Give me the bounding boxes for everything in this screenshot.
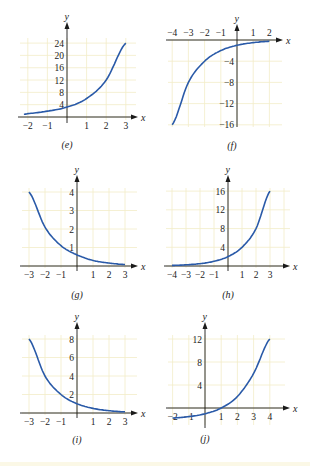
y-axis-label: y — [74, 311, 80, 322]
y-tick-label: 3 — [69, 206, 74, 216]
y-tick-label: 4 — [69, 188, 74, 198]
x-tick-label: 3 — [268, 270, 273, 280]
y-tick-label: 2 — [69, 390, 74, 400]
y-tick-label: 12 — [193, 335, 203, 345]
y-tick-label: 24 — [55, 39, 65, 49]
caption-i: (i) — [72, 434, 82, 446]
x-tick-label: 3 — [123, 121, 128, 131]
caption-f: (f) — [227, 140, 237, 152]
x-tick-label: −1 — [209, 270, 219, 280]
x-axis-arrow-icon — [131, 115, 138, 120]
x-tick-label: 1 — [91, 417, 96, 427]
plot-g: xy−3−2−11231234(g) — [20, 164, 146, 301]
y-tick-label: 8 — [197, 358, 202, 368]
x-axis-label: x — [140, 261, 146, 272]
y-axis-arrow-icon — [235, 24, 240, 31]
bottom-strip — [0, 462, 310, 466]
x-tick-label: 1 — [219, 412, 224, 422]
x-tick-label: −2 — [168, 412, 178, 422]
x-tick-label: −1 — [56, 270, 66, 280]
y-tick-label: 20 — [55, 51, 65, 61]
x-axis-label: x — [140, 408, 146, 419]
caption-h: (h) — [222, 289, 234, 301]
x-tick-label: 3 — [251, 412, 256, 422]
x-tick-label: −4 — [167, 270, 177, 280]
x-axis-arrow-icon — [283, 264, 290, 269]
y-tick-label: 8 — [220, 224, 225, 234]
y-tick-label: 16 — [216, 187, 226, 197]
grid — [22, 335, 137, 415]
y-axis-arrow-icon — [75, 175, 80, 182]
x-tick-label: −2 — [23, 121, 33, 131]
x-tick-label: 2 — [107, 270, 112, 280]
y-axis-label: y — [202, 311, 208, 322]
x-tick-label: −2 — [200, 28, 210, 38]
x-axis-arrow-icon — [131, 264, 138, 269]
x-tick-label: 1 — [251, 28, 256, 38]
x-tick-label: −2 — [40, 270, 50, 280]
x-axis-label: x — [292, 261, 298, 272]
y-tick-label: 8 — [59, 88, 64, 98]
y-axis-arrow-icon — [65, 22, 70, 29]
y-tick-label: 4 — [197, 381, 202, 391]
y-tick-label: 6 — [69, 353, 74, 363]
x-tick-label: −3 — [181, 270, 191, 280]
y-tick-label: 12 — [216, 205, 226, 215]
plot-e: xy−2−11234812162024(e) — [18, 11, 146, 151]
x-tick-label: 4 — [267, 412, 272, 422]
y-tick-label: −4 — [224, 57, 234, 67]
plot-i: xy−3−2−11232468(i) — [20, 311, 146, 446]
plot-h: xy−4−3−2−1123481216(h) — [164, 164, 298, 301]
y-axis-label: y — [234, 13, 240, 24]
y-axis-arrow-icon — [226, 175, 231, 182]
x-tick-label: 1 — [240, 270, 245, 280]
y-tick-label: 4 — [69, 372, 74, 382]
caption-g: (g) — [71, 289, 83, 301]
plot-j: xy−2−112344812(j) — [166, 311, 298, 445]
x-tick-label: 1 — [84, 121, 89, 131]
caption-e: (e) — [61, 139, 73, 151]
x-tick-label: 1 — [91, 270, 96, 280]
y-tick-label: −12 — [219, 99, 234, 109]
x-axis-label: x — [285, 35, 291, 46]
x-tick-label: 2 — [104, 121, 109, 131]
x-tick-label: 2 — [254, 270, 259, 280]
y-tick-label: −16 — [219, 120, 234, 130]
x-axis-arrow-icon — [276, 38, 283, 43]
y-axis-label: y — [225, 164, 231, 175]
plot-f: xy−4−3−2−112−4−8−12−16(f) — [166, 13, 291, 152]
caption-j: (j) — [200, 433, 210, 445]
x-axis-label: x — [292, 403, 298, 414]
x-tick-label: 3 — [123, 417, 128, 427]
x-tick-label: −3 — [183, 28, 193, 38]
y-tick-label: −8 — [224, 78, 234, 88]
x-axis-label: x — [140, 112, 146, 123]
x-tick-label: −1 — [216, 28, 226, 38]
x-tick-label: 2 — [107, 417, 112, 427]
x-tick-label: −2 — [40, 417, 50, 427]
y-tick-label: 12 — [55, 76, 65, 86]
x-tick-label: −1 — [42, 121, 52, 131]
chart-canvas: xy−2−11234812162024(e)xy−4−3−2−112−4−8−1… — [0, 0, 310, 466]
x-axis-arrow-icon — [131, 411, 138, 416]
y-tick-label: 4 — [220, 243, 225, 253]
y-tick-label: 8 — [69, 335, 74, 345]
curve-e — [24, 43, 126, 114]
x-tick-label: −4 — [167, 28, 177, 38]
y-axis-label: y — [64, 11, 70, 22]
x-tick-label: 2 — [235, 412, 240, 422]
x-tick-label: 2 — [267, 28, 272, 38]
y-tick-label: 16 — [55, 63, 65, 73]
y-axis-arrow-icon — [203, 322, 208, 329]
x-tick-label: −1 — [56, 417, 66, 427]
y-axis-label: y — [74, 164, 80, 175]
x-tick-label: −3 — [24, 270, 34, 280]
y-axis-arrow-icon — [75, 322, 80, 329]
x-tick-label: 3 — [123, 270, 128, 280]
x-tick-label: −3 — [24, 417, 34, 427]
x-tick-label: −2 — [195, 270, 205, 280]
x-axis-arrow-icon — [283, 406, 290, 411]
y-tick-label: 2 — [69, 225, 74, 235]
grid — [20, 38, 136, 120]
